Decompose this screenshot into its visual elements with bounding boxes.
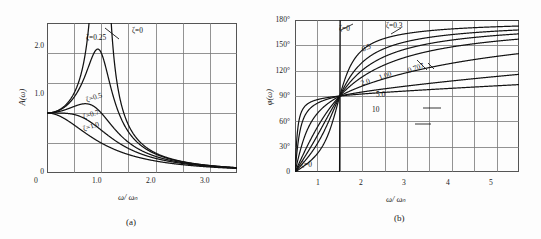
- curve-label-a-zeta-0p25: ζ=0.25: [86, 33, 106, 42]
- curve-zeta-0p7: [47, 113, 237, 168]
- curve-zeta-10: [295, 85, 519, 172]
- magnitude-plot-svg: [47, 23, 237, 173]
- xlabel-a: ω/ ωₙ: [118, 192, 138, 202]
- curve-zeta-0p25: [47, 49, 237, 168]
- caption-b: (b): [394, 213, 405, 223]
- curve-label-b-5p0: 5.0: [376, 90, 385, 99]
- xtick-a-3: 3.0: [200, 176, 210, 185]
- ylabel-b: φ(ω): [264, 67, 274, 127]
- plot-area-b: [295, 20, 519, 172]
- xtick-a-1: 1.0: [92, 176, 102, 185]
- curve-label-a-zeta-0: ζ=0: [132, 26, 143, 35]
- curve-label-b-zeta-0-bottom: ζ=0: [301, 160, 312, 169]
- ylabel-a: A(ω): [17, 67, 27, 127]
- plot-area-a: [47, 23, 237, 173]
- curve-zeta-5: [295, 74, 519, 172]
- xtick-b-5: 5: [489, 178, 493, 187]
- ytick-b-0: 0: [260, 167, 290, 176]
- xtick-a-0: 0: [34, 176, 38, 185]
- xtick-b-1: 1: [316, 178, 320, 187]
- curve-zeta-1: [47, 113, 237, 168]
- xlabel-b: ω/ ωₙ: [386, 194, 406, 204]
- xtick-b-4: 4: [446, 178, 450, 187]
- panel-b: 180° 150° 120° 90° 60° 30° 0 1 2 3 4 5 φ…: [262, 0, 541, 239]
- curve-label-b-10: 10: [372, 105, 379, 114]
- figure-container: 2.0 1.0 0 0 1.0 2.0 3.0 A(ω) ω/ ωₙ (a) ζ…: [0, 0, 541, 239]
- curve-label-b-zeta-0-top: ζ=0: [339, 24, 350, 33]
- ytick-b-5: 150°: [260, 40, 290, 49]
- plot-frame: [296, 21, 519, 172]
- phase-plot-svg: [295, 20, 519, 172]
- curve-label-b-zeta-0p3: ζ=0.3: [386, 21, 402, 30]
- xtick-a-2: 2.0: [146, 176, 156, 185]
- panel-a: 2.0 1.0 0 0 1.0 2.0 3.0 A(ω) ω/ ωₙ (a) ζ…: [0, 0, 262, 239]
- curve-zeta-0p5: [295, 30, 519, 172]
- ytick-b-1: 30°: [260, 142, 290, 151]
- ytick-b-6: 180°: [260, 15, 290, 24]
- xtick-b-2: 2: [359, 178, 363, 187]
- ytick-a-0: 0: [13, 167, 44, 176]
- caption-a: (a): [126, 217, 136, 227]
- curve-zeta-1: [295, 39, 519, 172]
- ytick-a-2: 2.0: [13, 41, 44, 50]
- xtick-b-3: 3: [402, 178, 406, 187]
